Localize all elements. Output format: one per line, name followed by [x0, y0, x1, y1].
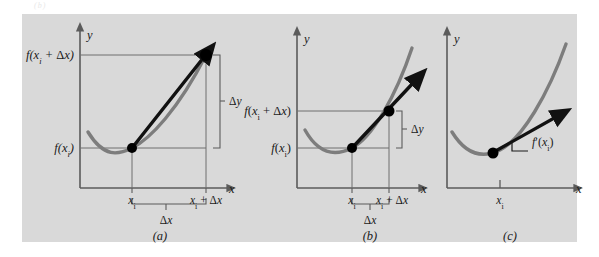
panel-a-point-xi-dx: [200, 49, 212, 61]
panel-b-label-delta-y: Δy: [411, 123, 424, 136]
panel-a-label-delta-x: Δx: [160, 214, 173, 226]
figure-plate-background: [22, 14, 577, 242]
panel-c-point-xi: [488, 148, 499, 159]
panel-a-point-xi: [127, 143, 137, 153]
panel-c-axis-label-x: x: [575, 182, 582, 196]
panel-a-label-delta-y: Δy: [229, 95, 242, 108]
panel-c-axis-label-y: y: [452, 32, 460, 46]
panel-b-label-delta-x: Δx: [364, 214, 377, 226]
figure-container: (b): [0, 0, 599, 257]
panel-a-caption: (a): [153, 229, 168, 243]
scan-artifact-text: (b): [34, 1, 56, 10]
panel-b-caption: (b): [363, 229, 378, 243]
panel-b-point-xi: [347, 143, 357, 153]
panel-c-caption: (c): [503, 229, 517, 243]
derivative-definition-figure: f(xi + Δx) f(xi) y x xi xi + Δx Δy Δx (a…: [0, 0, 599, 257]
panel-a-axis-label-x: x: [228, 182, 235, 196]
panel-b-axis-label-y: y: [302, 32, 310, 46]
panel-a-axis-label-y: y: [85, 28, 93, 42]
panel-b-point-xi-dx: [384, 106, 395, 117]
panel-b-axis-label-x: x: [420, 182, 427, 196]
